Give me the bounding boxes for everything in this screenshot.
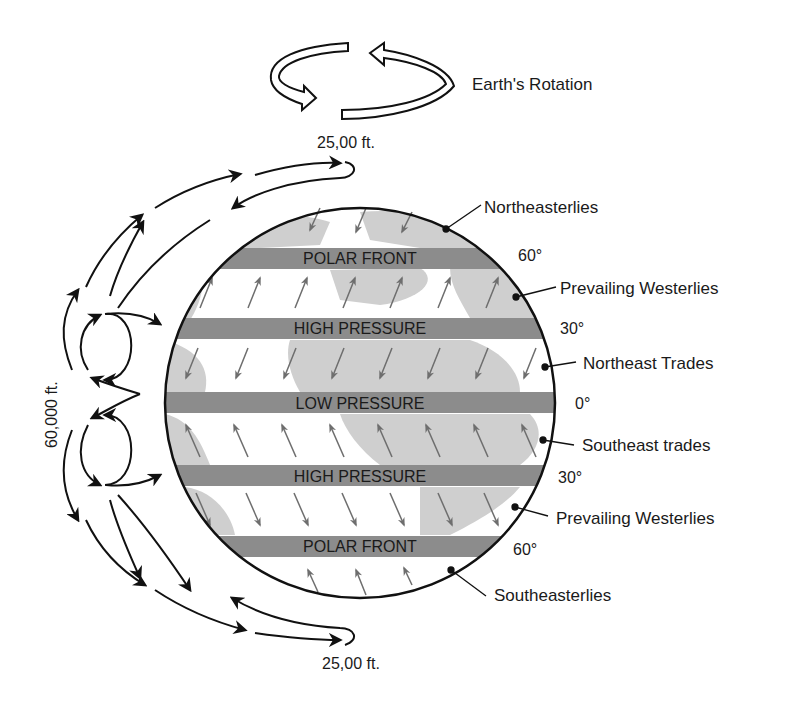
band-label-high-pressure-north: HIGH PRESSURE [294,320,426,337]
band-label-low-pressure: LOW PRESSURE [296,395,425,412]
band-label-polar-front-south: POLAR FRONT [303,538,417,555]
globe: POLAR FRONT HIGH PRESSURE LOW PRESSURE H… [150,208,570,598]
latitude-60-north: 60° [518,247,542,264]
wind-label-southeasterlies: Southeasterlies [494,586,611,605]
wind-label-prevailing-westerlies-south: Prevailing Westerlies [556,509,714,528]
wind-label-northeasterlies: Northeasterlies [484,198,598,217]
latitude-30-north: 30° [560,320,584,337]
wind-label-northeast-trades: Northeast Trades [583,354,713,373]
altitude-side-label: 60,000 ft. [43,381,60,448]
wind-label-southeast-trades: Southeast trades [582,436,711,455]
band-label-polar-front-north: POLAR FRONT [303,250,417,267]
wind-label-prevailing-westerlies-north: Prevailing Westerlies [560,279,718,298]
atmospheric-circulation-diagram: Earth's Rotation 25,00 ft. 25,00 ft. 60,… [0,0,788,702]
latitude-0: 0° [575,395,590,412]
latitude-60-south: 60° [513,541,537,558]
altitude-top-label: 25,00 ft. [317,134,375,151]
altitude-bottom-label: 25,00 ft. [322,655,380,672]
band-label-high-pressure-south: HIGH PRESSURE [294,468,426,485]
earth-rotation-icon [271,43,454,119]
earth-rotation-label: Earth's Rotation [472,75,592,94]
latitude-30-south: 30° [558,469,582,486]
